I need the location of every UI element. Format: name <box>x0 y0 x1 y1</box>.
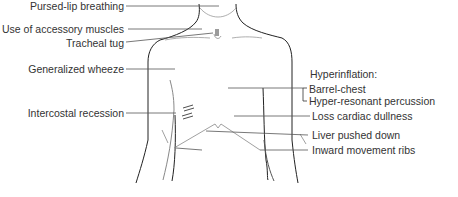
label-intercostal-recession: Intercostal recession <box>0 107 124 119</box>
label-generalized-wheeze: Generalized wheeze <box>0 63 124 75</box>
heading-hyperinflation: Hyperinflation: <box>310 68 377 80</box>
torso-outline <box>136 4 298 183</box>
label-liver-pushed-down: Liver pushed down <box>312 129 400 141</box>
neck-curve <box>165 8 262 40</box>
label-tracheal-tug: Tracheal tug <box>0 37 124 49</box>
label-inward-movement-ribs: Inward movement ribs <box>312 144 415 156</box>
label-accessory-muscles: Use of accessory muscles <box>0 23 124 35</box>
tracheal-tug-mark <box>214 29 221 38</box>
costal-margin <box>162 124 306 150</box>
label-barrel-chest: Barrel-chest <box>309 83 366 95</box>
label-pursed-lip-breathing: Pursed-lip breathing <box>0 0 124 12</box>
label-loss-cardiac-dullness: Loss cardiac dullness <box>312 110 412 122</box>
label-hyper-resonant-percussion: Hyper-resonant percussion <box>309 95 435 107</box>
hyperinflation-bracket <box>303 88 307 101</box>
intercostal-marks <box>182 105 194 119</box>
